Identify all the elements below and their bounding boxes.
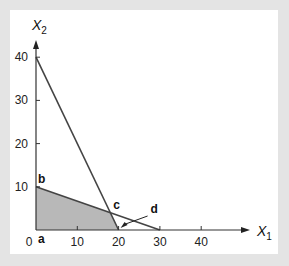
y-tick-label: 30 bbox=[15, 93, 29, 107]
point-label-c: c bbox=[113, 198, 120, 212]
pointer-arrow-icon bbox=[121, 222, 128, 228]
point-label-a: a bbox=[38, 232, 45, 246]
x-tick-label: 0 bbox=[26, 235, 33, 249]
x-axis-arrow-icon bbox=[241, 227, 250, 233]
x-tick-label: 10 bbox=[71, 235, 85, 249]
point-label-d: d bbox=[151, 202, 158, 216]
feasible-region-fill bbox=[36, 187, 119, 230]
x-tick-label: 30 bbox=[153, 235, 167, 249]
feasible-region bbox=[36, 187, 119, 230]
y-axis-label: X2 bbox=[31, 17, 47, 36]
x-tick-label: 20 bbox=[112, 235, 126, 249]
y-tick-label: 10 bbox=[15, 180, 29, 194]
x-axis-label: X1 bbox=[256, 223, 272, 242]
x-tick-label: 40 bbox=[195, 235, 209, 249]
y-tick-label: 40 bbox=[15, 50, 29, 64]
lp-graph: 01020304010203040 abcd X1 X2 bbox=[0, 0, 289, 266]
y-tick-label: 20 bbox=[15, 137, 29, 151]
point-label-b: b bbox=[38, 172, 45, 186]
y-axis-arrow-icon bbox=[33, 40, 39, 49]
